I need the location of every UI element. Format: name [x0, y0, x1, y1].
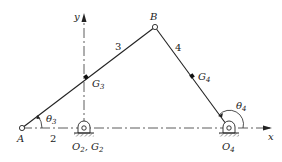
- pin-b: [152, 24, 157, 29]
- x-axis-label: x: [268, 131, 274, 142]
- four-bar-linkage-diagram: x y 3 4 2 θ3 θ4 A B O2, G2: [0, 0, 282, 162]
- ground-pivot-o2: [74, 121, 94, 137]
- point-g4-label: G4: [198, 71, 210, 84]
- point-o4-label: O4: [222, 141, 235, 154]
- pin-a: [19, 125, 24, 130]
- point-b-label: B: [149, 11, 157, 22]
- y-axis-label: y: [73, 11, 80, 22]
- point-o2-g2-label: O2, G2: [72, 141, 104, 154]
- x-axis-arrow-icon: [263, 126, 272, 131]
- point-g3-label: G3: [92, 78, 105, 91]
- theta3-label: θ3: [46, 113, 57, 126]
- link-3-label: 3: [115, 41, 121, 52]
- point-a-label: A: [16, 133, 24, 144]
- link-2-label: 2: [50, 133, 56, 144]
- y-axis: y: [73, 11, 87, 128]
- ground-pivot-o4: [219, 121, 239, 137]
- y-axis-arrow-icon: [82, 13, 87, 22]
- link-4-label: 4: [175, 42, 181, 53]
- theta4-label: θ4: [236, 100, 247, 113]
